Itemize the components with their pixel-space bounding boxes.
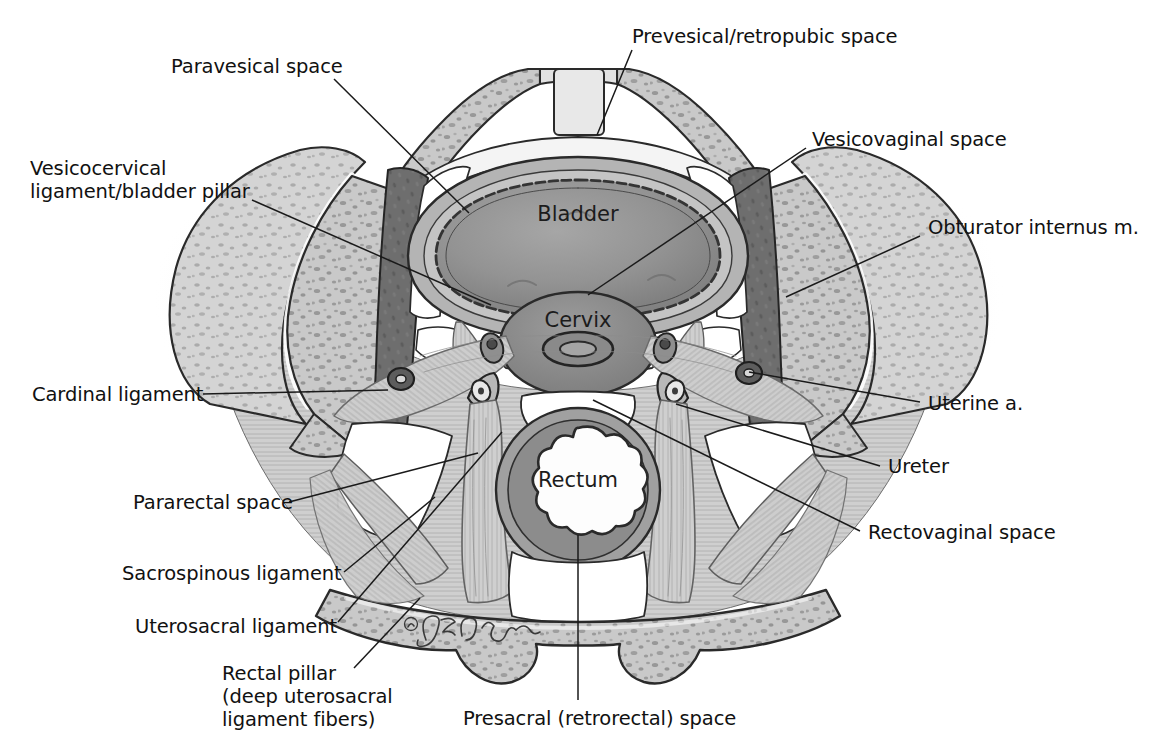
callout-label-cardinal-ligament: Cardinal ligament [32,383,203,406]
figure-canvas: BladderCervixRectum Paravesical spacePre… [0,0,1157,751]
callout-label-vesicovaginal-space: Vesicovaginal space [812,128,1007,151]
pubic-symphysis-disc [554,69,604,135]
callout-label-vesicocervical-ligament-bladder-pillar: Vesicocervical ligament/bladder pillar [30,157,250,203]
left-uterine-artery [388,368,414,390]
organ-label-bladder: Bladder [537,202,619,226]
cervical-canal-lumen [560,342,596,357]
callout-label-prevesical-retropubic-space: Prevesical/retropubic space [632,25,897,48]
callout-label-presacral-retrorectal-space: Presacral (retrorectal) space [463,707,736,730]
callout-label-rectovaginal-space: Rectovaginal space [868,521,1056,544]
organ-label-cervix: Cervix [545,308,612,332]
callout-label-ureter: Ureter [888,455,949,478]
callout-label-obturator-internus-muscle: Obturator internus m. [928,216,1139,239]
pelvis-cross-section-illustration: BladderCervixRectum [0,0,1157,751]
callout-label-uterine-artery: Uterine a. [928,392,1023,415]
callout-label-sacrospinous-ligament: Sacrospinous ligament [122,562,342,585]
callout-label-paravesical-space: Paravesical space [171,55,343,78]
callout-label-uterosacral-ligament: Uterosacral ligament [135,615,337,638]
callout-label-pararectal-space: Pararectal space [133,491,293,514]
organ-label-rectum: Rectum [538,468,618,492]
callout-label-rectal-pillar: Rectal pillar (deep uterosacral ligament… [222,662,393,731]
